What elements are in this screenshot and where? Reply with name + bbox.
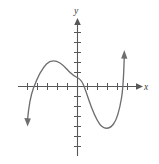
y-axis-label: y <box>73 6 79 16</box>
curve-start-arrow-icon <box>24 118 31 127</box>
x-axis <box>18 83 143 90</box>
x-axis-label: x <box>143 82 149 92</box>
curve-end-arrow-icon <box>121 50 127 59</box>
x-axis-arrow-icon <box>136 83 143 90</box>
coordinate-plot: x y <box>0 0 159 164</box>
y-axis-arrow-icon <box>74 18 81 25</box>
curve-path <box>28 58 125 128</box>
graph-figure: x y <box>0 0 159 164</box>
